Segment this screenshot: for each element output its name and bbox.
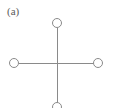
star-graph-diagram: [0, 0, 113, 108]
node-bottom: [53, 103, 62, 109]
node-left: [10, 59, 19, 68]
graph-edges: [19, 28, 94, 103]
figure-panel: (a): [0, 0, 113, 108]
node-right: [94, 59, 103, 68]
node-top: [53, 19, 62, 28]
